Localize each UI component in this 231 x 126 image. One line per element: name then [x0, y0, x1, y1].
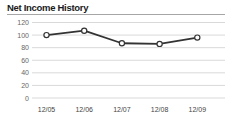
y-tick-label: 0	[25, 95, 29, 102]
x-tick-label: 12/05	[38, 106, 56, 113]
x-tick-label: 12/09	[189, 106, 207, 113]
y-tick-label: 20	[21, 82, 29, 89]
data-point-marker	[82, 28, 87, 33]
y-tick-label: 60	[21, 57, 29, 64]
x-tick-label: 12/08	[151, 106, 169, 113]
x-tick-label: 12/06	[75, 106, 93, 113]
data-point-marker	[195, 35, 200, 40]
data-point-marker	[119, 41, 124, 46]
x-tick-label: 12/07	[113, 106, 131, 113]
data-point-marker	[157, 41, 162, 46]
net-income-chart: 02040608010012012/0512/0612/0712/0812/09	[0, 0, 231, 126]
data-point-marker	[44, 32, 49, 37]
y-tick-label: 100	[17, 32, 29, 39]
y-tick-label: 120	[17, 19, 29, 26]
y-tick-label: 80	[21, 44, 29, 51]
y-tick-label: 40	[21, 69, 29, 76]
net-income-history-widget: Net Income History 02040608010012012/051…	[0, 0, 231, 126]
